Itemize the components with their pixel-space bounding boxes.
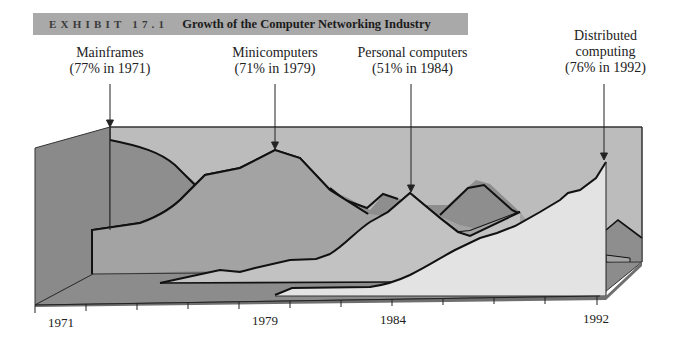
annotation-minicomputers-detail: (71% in 1979) [220,61,330,77]
annotation-distributed-computing-line2: computing [553,44,658,60]
annotation-distributed-computing-detail: (76% in 1992) [553,60,658,76]
annotation-distributed-computing-line1: Distributed [553,28,658,44]
x-tick-label-1992: 1992 [583,311,609,327]
annotation-mainframes-name: Mainframes [60,45,160,61]
annotation-personal-computers: Personal computers (51% in 1984) [345,45,480,77]
annotation-mainframes-detail: (77% in 1971) [60,61,160,77]
x-tick-label-1979: 1979 [252,313,278,329]
x-tick-label-1984: 1984 [380,312,406,328]
annotation-personal-computers-detail: (51% in 1984) [345,61,480,77]
annotation-distributed-computing: Distributed computing (76% in 1992) [553,28,658,76]
x-tick-label-1971: 1971 [48,315,74,331]
annotation-minicomputers-name: Minicomputers [220,45,330,61]
annotation-minicomputers: Minicomputers (71% in 1979) [220,45,330,77]
annotation-personal-computers-name: Personal computers [345,45,480,61]
personal-computers-base-line [160,282,400,283]
annotation-mainframes: Mainframes (77% in 1971) [60,45,160,77]
